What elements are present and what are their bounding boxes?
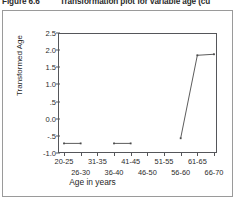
y-tick-label: 2.5: [28, 29, 56, 38]
x-tick-mark: [131, 153, 132, 156]
x-tick-label: 41-45: [121, 157, 140, 166]
y-tick-label: -1.0: [28, 149, 56, 158]
x-tick-mark: [97, 153, 98, 156]
x-tick-mark: [214, 153, 215, 156]
x-tick-label: 26-30: [71, 168, 90, 177]
x-tick-mark: [181, 153, 182, 156]
y-tick-label: .5: [28, 97, 56, 106]
y-tick-label: 0.0: [28, 114, 56, 123]
x-tick-mark: [64, 153, 65, 156]
x-tick-label: 66-70: [205, 168, 224, 177]
x-tick-mark: [147, 153, 148, 156]
data-line-segment: [181, 54, 214, 138]
data-point-marker: [196, 54, 198, 56]
y-tick-label: 1.5: [28, 63, 56, 72]
data-point-marker: [213, 53, 215, 55]
x-tick-label: 51-55: [155, 157, 174, 166]
data-point-marker: [80, 143, 82, 145]
y-tick-label: -.5: [28, 131, 56, 140]
x-tick-label: 31-35: [88, 157, 107, 166]
x-tick-mark: [81, 153, 82, 156]
x-tick-mark: [197, 153, 198, 156]
x-tick-mark: [114, 153, 115, 156]
x-tick-label: 20-25: [55, 157, 74, 166]
y-axis-ticks: 2.52.01.51.0.50.0-.5-1.0: [23, 33, 56, 153]
data-point-marker: [130, 143, 132, 145]
x-tick-label: 61-65: [188, 157, 207, 166]
figure-caption: Figure 6.6 Transformation plot for varia…: [0, 0, 241, 9]
chart-data-layer: [58, 33, 217, 153]
y-tick-label: 2.0: [28, 46, 56, 55]
x-tick-label: 56-60: [171, 168, 190, 177]
data-point-marker: [63, 143, 65, 145]
figure-title: Transformation plot for variable age (cu: [60, 0, 210, 6]
x-axis-label: Age in years: [3, 177, 234, 187]
y-tick-label: 1.0: [28, 80, 56, 89]
chart-panel: Transformed Age 2.52.01.51.0.50.0-.5-1.0…: [2, 10, 233, 197]
data-point-marker: [180, 137, 182, 139]
x-tick-label: 46-50: [138, 168, 157, 177]
x-tick-mark: [164, 153, 165, 156]
data-point-marker: [113, 143, 115, 145]
x-tick-label: 36-40: [105, 168, 124, 177]
x-axis-label-text: Age in years: [69, 177, 116, 187]
